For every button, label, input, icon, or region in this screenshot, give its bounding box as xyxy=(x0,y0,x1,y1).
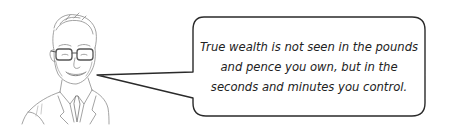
quote-text: True wealth is not seen in the pounds an… xyxy=(196,22,422,112)
quote-illustration: True wealth is not seen in the pounds an… xyxy=(0,0,449,125)
